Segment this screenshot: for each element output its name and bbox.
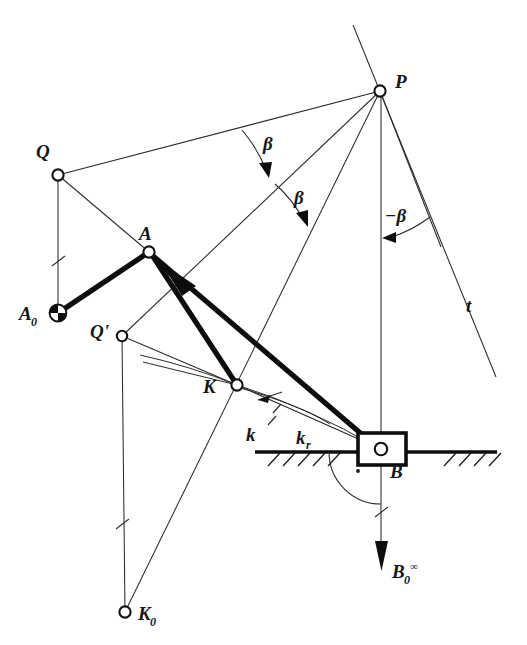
label-kr-subscript: r xyxy=(306,438,311,452)
coupler-links xyxy=(58,252,379,449)
leader-dash-k-1 xyxy=(273,404,281,413)
curvature-curves xyxy=(140,355,378,448)
joint-A0-quadrant-upper-left xyxy=(50,305,58,313)
joint-P[interactable] xyxy=(374,85,385,96)
label-A0-subscript: 0 xyxy=(31,315,37,329)
text-labels: P Q Q' A A 0 K K 0 B B 0 ∞ t k k xyxy=(18,71,472,629)
link-A-to-B-thick xyxy=(152,255,379,449)
ground-hatch xyxy=(459,453,471,466)
label-P: P xyxy=(394,71,407,92)
label-A0: A xyxy=(18,303,32,324)
link-A0-to-A-thick xyxy=(58,252,149,313)
force-arrow-B0-infinity xyxy=(375,541,388,571)
joints xyxy=(50,85,388,617)
label-B: B xyxy=(389,461,403,482)
joint-A[interactable] xyxy=(143,246,154,257)
label-beta-negative: −β xyxy=(385,205,407,226)
ground-hatch xyxy=(489,453,501,466)
label-B0-subscript: 0 xyxy=(404,573,410,587)
link-Q-to-A xyxy=(58,175,149,252)
arrowhead-beta-1 xyxy=(259,162,272,178)
label-Qprime: Q' xyxy=(90,321,109,342)
ground-hatch xyxy=(313,453,325,466)
ground-hatch xyxy=(283,453,295,466)
ray-P-to-Q xyxy=(58,91,380,175)
joint-B[interactable] xyxy=(375,443,387,455)
ground-hatch xyxy=(268,453,280,466)
construction-lines xyxy=(52,25,496,612)
link-Qprime-to-K0 xyxy=(122,336,125,612)
joint-K0[interactable] xyxy=(119,606,130,617)
joint-Qprime[interactable] xyxy=(117,331,127,341)
label-Q: Q xyxy=(36,141,50,162)
label-kr: k xyxy=(296,427,306,448)
line-t-tangent xyxy=(353,25,496,377)
label-K0-group: K 0 xyxy=(137,603,156,629)
label-K: K xyxy=(202,376,217,397)
joint-K[interactable] xyxy=(231,379,242,390)
label-B0-infinity-group: B 0 ∞ xyxy=(391,560,418,587)
label-t: t xyxy=(466,295,472,316)
arrowhead-beta-2 xyxy=(296,210,308,227)
label-kr-group: k r xyxy=(296,427,311,452)
tick-mark-Qprime-K0 xyxy=(116,519,129,529)
ground-hatch xyxy=(298,453,310,466)
label-K0-subscript: 0 xyxy=(150,615,156,629)
joint-A0-quadrant-lower-right xyxy=(58,313,66,321)
label-A0-group: A 0 xyxy=(18,303,37,329)
label-B0: B xyxy=(391,561,405,582)
label-k: k xyxy=(246,424,256,445)
right-angle-dot xyxy=(356,469,360,473)
ground-hatch xyxy=(444,453,456,466)
label-beta-2: β xyxy=(293,187,304,208)
ground-hatch xyxy=(474,453,486,466)
kinematic-diagram-canvas: P Q Q' A A 0 K K 0 B B 0 ∞ t k k xyxy=(0,0,527,645)
ray-P-to-A-Qprime xyxy=(122,91,380,336)
joint-Q[interactable] xyxy=(52,169,63,180)
label-A: A xyxy=(138,223,152,244)
ray-P-to-K-K0 xyxy=(125,91,380,612)
kinematic-linkage-svg: P Q Q' A A 0 K K 0 B B 0 ∞ t k k xyxy=(0,0,527,645)
arrowhead-beta-negative xyxy=(382,232,396,243)
label-beta-1: β xyxy=(262,133,273,154)
label-B0-superscript-infinity: ∞ xyxy=(410,560,418,572)
leader-dash-k-2 xyxy=(268,416,276,425)
force-arrowhead xyxy=(375,541,388,571)
joint-A0-fixed-pivot[interactable] xyxy=(50,305,67,322)
